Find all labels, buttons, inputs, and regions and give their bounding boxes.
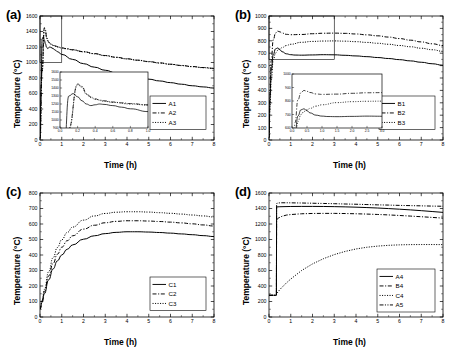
legend-label-A2: A2 (169, 109, 177, 116)
y-tick-label: 400 (29, 252, 38, 258)
x-tick-label: 2 (82, 318, 85, 324)
x-tick-label: 2 (311, 318, 314, 324)
x-tick-label: 5 (147, 318, 150, 324)
figure-container: (a) Temperature (°C) Time (h) 0200400600… (0, 0, 459, 354)
x-tick-label: 1 (289, 141, 292, 147)
zoom-region-box (269, 16, 334, 59)
y-tick-label: 800 (258, 252, 267, 258)
inset-y-tick-label: 1400 (51, 86, 59, 90)
y-tick-label: 400 (29, 106, 38, 112)
legend-label-B2: B2 (398, 109, 406, 116)
inset-x-tick-label: 0.0 (290, 129, 295, 133)
x-tick-label: 8 (213, 141, 216, 147)
panel-c-plot: 0100200300400500600700800012345678C1C2C3 (0, 177, 229, 354)
x-tick-label: 1 (60, 318, 63, 324)
inset-x-tick-label: 0.6 (110, 129, 115, 133)
x-tick-label: 1 (60, 141, 63, 147)
x-tick-label: 8 (442, 141, 445, 147)
y-tick-label: 300 (258, 100, 267, 106)
legend-label-C1: C1 (169, 281, 177, 288)
y-tick-label: 700 (29, 205, 38, 211)
x-tick-label: 3 (104, 318, 107, 324)
y-tick-label: 1600 (255, 190, 267, 196)
y-tick-label: 600 (29, 221, 38, 227)
x-tick-label: 3 (333, 141, 336, 147)
legend-label-C3: C3 (169, 300, 177, 307)
y-tick-label: 1600 (26, 13, 38, 19)
x-tick-label: 6 (169, 318, 172, 324)
inset-x-tick-label: 1.0 (320, 129, 325, 133)
y-tick-label: 1200 (26, 44, 38, 50)
panel-a-plot: 02004006008001000120014001600012345678A1… (0, 0, 229, 177)
y-tick-label: 200 (29, 121, 38, 127)
x-tick-label: 5 (147, 141, 150, 147)
y-tick-label: 1000 (255, 13, 267, 19)
inset-x-tick-label: 0.5 (305, 129, 310, 133)
inset-y-tick-label: 1000 (51, 118, 59, 122)
panel-d-plot: 02004006008001000120014001600012345678A4… (229, 177, 458, 354)
x-tick-label: 4 (355, 318, 358, 324)
x-tick-label: 7 (191, 318, 194, 324)
legend-label-C2: C2 (169, 290, 177, 297)
inset-x-tick-label: 1.5 (335, 129, 340, 133)
y-tick-label: 0 (264, 137, 267, 143)
panel-c: (c) Temperature (°C) Time (h) 0100200300… (0, 177, 229, 354)
y-tick-label: 100 (258, 125, 267, 131)
inset-x-tick-label: 0.8 (128, 129, 133, 133)
y-tick-label: 600 (29, 90, 38, 96)
y-tick-label: 0 (35, 137, 38, 143)
x-tick-label: 4 (355, 141, 358, 147)
x-tick-label: 8 (442, 318, 445, 324)
x-tick-label: 7 (420, 141, 423, 147)
y-tick-label: 200 (258, 112, 267, 118)
legend-label-B1: B1 (398, 100, 406, 107)
legend-label-A5: A5 (396, 301, 404, 308)
panel-b: (b) Temperature (°C) Time (h) 0100200300… (229, 0, 458, 177)
inset-x-tick-label: 0.4 (93, 129, 98, 133)
inset-x-tick-label: 1.0 (146, 129, 151, 133)
inset-y-tick-label: 700 (285, 113, 291, 117)
y-tick-label: 0 (264, 314, 267, 320)
y-tick-label: 400 (258, 283, 267, 289)
legend-label-B3: B3 (398, 119, 406, 126)
x-tick-label: 1 (289, 318, 292, 324)
y-tick-label: 200 (29, 283, 38, 289)
x-tick-label: 4 (126, 141, 129, 147)
x-tick-label: 5 (376, 141, 379, 147)
panel-b-plot: 0100200300400500600700800900100001234567… (229, 0, 458, 177)
y-tick-label: 1400 (255, 205, 267, 211)
x-tick-label: 2 (82, 141, 85, 147)
x-tick-label: 6 (169, 141, 172, 147)
x-tick-label: 0 (39, 141, 42, 147)
y-tick-label: 600 (258, 267, 267, 273)
legend-label-B4: B4 (396, 282, 404, 289)
y-tick-label: 1000 (26, 59, 38, 65)
inset-x-tick-label: 0.0 (58, 129, 63, 133)
inset-y-tick-label: 1600 (51, 70, 59, 74)
y-tick-label: 500 (258, 75, 267, 81)
x-tick-label: 2 (311, 141, 314, 147)
inset-y-tick-label: 1100 (51, 110, 58, 114)
x-tick-label: 0 (39, 318, 42, 324)
legend-label-C4: C4 (396, 292, 404, 299)
inset-x-tick-label: 0.2 (75, 129, 80, 133)
y-tick-label: 800 (29, 75, 38, 81)
y-tick-label: 900 (258, 25, 267, 31)
inset-x-tick-label: 2.5 (365, 129, 370, 133)
x-tick-label: 0 (268, 141, 271, 147)
x-tick-label: 7 (420, 318, 423, 324)
y-tick-label: 1200 (255, 221, 267, 227)
x-tick-label: 4 (126, 318, 129, 324)
y-tick-label: 400 (258, 87, 267, 93)
x-tick-label: 0 (268, 318, 271, 324)
panel-d: (d) Temperature (°C) Time (h) 0200400600… (229, 177, 458, 354)
y-tick-label: 100 (29, 298, 38, 304)
inset-y-tick-label: 800 (285, 99, 291, 103)
inset-frame (60, 72, 148, 128)
y-tick-label: 700 (258, 50, 267, 56)
y-tick-label: 800 (258, 38, 267, 44)
y-tick-label: 500 (29, 236, 38, 242)
x-tick-label: 3 (104, 141, 107, 147)
x-tick-label: 6 (398, 318, 401, 324)
legend-label-A4: A4 (396, 273, 404, 280)
